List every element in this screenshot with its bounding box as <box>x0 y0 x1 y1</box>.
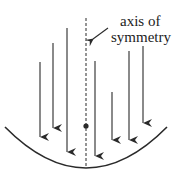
axis-label-line1: axis of <box>120 13 160 29</box>
incoming-rays <box>40 28 143 156</box>
parabolic-mirror-diagram: axis of symmetry <box>0 0 181 177</box>
axis-label-line2: symmetry <box>111 29 171 45</box>
focus-dot <box>83 123 88 128</box>
axis-pointer-arrow <box>93 28 108 39</box>
